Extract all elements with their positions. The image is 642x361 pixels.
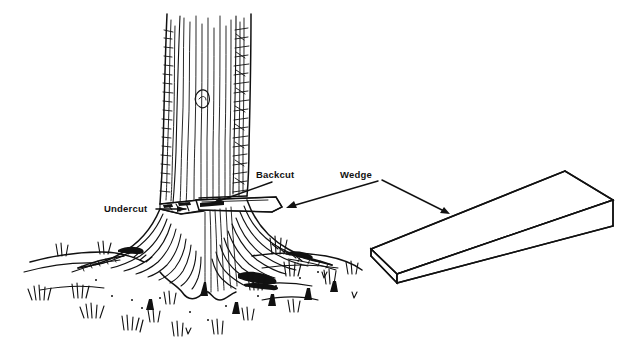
label-wedge: Wedge	[340, 169, 372, 180]
small-wedge-in-backcut	[196, 196, 282, 212]
tree-felling-diagram: Undercut Backcut Wedge	[0, 0, 642, 361]
grass-tufts	[28, 236, 358, 336]
base-grain-center	[205, 207, 237, 293]
root-lines-left	[95, 214, 201, 289]
wedge-leader-line-right	[382, 180, 450, 214]
bark-texture-left	[166, 16, 244, 211]
label-backcut: Backcut	[256, 169, 295, 180]
label-undercut: Undercut	[104, 203, 148, 214]
tree-trunk	[160, 14, 251, 211]
figure-root: Undercut Backcut Wedge	[0, 0, 642, 361]
wedge-leader-line-left	[286, 181, 378, 208]
ground-and-grass	[24, 236, 362, 336]
wedge-detail-view	[371, 171, 613, 283]
